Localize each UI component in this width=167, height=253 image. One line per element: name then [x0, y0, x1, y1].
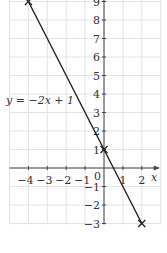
y-tick-label: −2 — [84, 199, 100, 212]
x-tick-label: −3 — [36, 174, 52, 187]
x-tick-label: 2 — [138, 174, 145, 187]
y-tick-label: 1 — [93, 144, 100, 157]
x-tick-label: −4 — [17, 174, 33, 187]
y-tick-label: 5 — [93, 70, 100, 83]
y-tick-label: −3 — [84, 218, 100, 231]
y-tick-label: 6 — [93, 51, 100, 64]
y-tick-label: 4 — [93, 88, 100, 101]
y-tick-label: 3 — [93, 107, 100, 120]
x-axis-arrow-icon — [154, 166, 160, 171]
x-axis-label: x — [151, 171, 158, 184]
y-tick-label: 7 — [93, 33, 100, 46]
y-tick-label: −1 — [84, 181, 100, 194]
tick-labels: −4−3−2−1120987654321−1−2−3 — [17, 0, 145, 231]
y-tick-label: 9 — [93, 0, 100, 9]
equation-label: y = −2x + 1 — [5, 94, 74, 107]
x-tick-label: −2 — [55, 174, 71, 187]
y-tick-label: 8 — [93, 14, 100, 27]
line-graph: −4−3−2−1120987654321−1−2−3 y = −2x + 1 x — [0, 0, 167, 253]
